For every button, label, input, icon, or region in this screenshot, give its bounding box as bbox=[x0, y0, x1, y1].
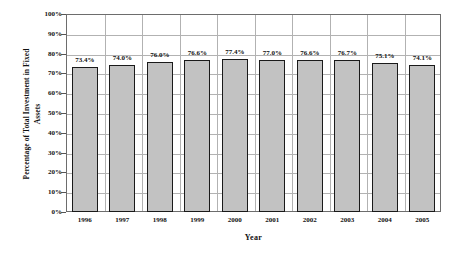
bar-2002[interactable] bbox=[297, 60, 323, 212]
y-axis-tick-mark bbox=[61, 73, 66, 74]
y-axis-tick-label: 30% bbox=[30, 149, 62, 157]
x-axis-tick-label-2000: 2000 bbox=[228, 216, 242, 224]
bar-group-2000[interactable]: 77.4% bbox=[216, 14, 254, 212]
bar-value-label-1997: 74.0% bbox=[113, 54, 132, 62]
x-axis-tick-label-2004: 2004 bbox=[378, 216, 392, 224]
y-axis-tick-label: 70% bbox=[30, 69, 62, 77]
bar-group-2004[interactable]: 75.1% bbox=[366, 14, 404, 212]
bar-value-label-1999: 76.6% bbox=[188, 49, 207, 57]
bar-1998[interactable] bbox=[147, 62, 173, 212]
y-axis-tick-label: 20% bbox=[30, 168, 62, 176]
x-axis-tick-label-1999: 1999 bbox=[190, 216, 204, 224]
bar-group-2003[interactable]: 76.7% bbox=[329, 14, 367, 212]
y-axis-tick-mark bbox=[61, 133, 66, 134]
x-axis-tick-label-2001: 2001 bbox=[265, 216, 279, 224]
y-axis-tick-label: 90% bbox=[30, 30, 62, 38]
x-axis-tick-label-1998: 1998 bbox=[153, 216, 167, 224]
x-axis-tick-label-1997: 1997 bbox=[115, 216, 129, 224]
y-axis-tick-mark bbox=[61, 153, 66, 154]
bars-layer: 73.4%74.0%76.0%76.6%77.4%77.0%76.6%76.7%… bbox=[66, 14, 441, 212]
bar-value-label-2004: 75.1% bbox=[375, 52, 394, 60]
y-axis-tick-mark bbox=[61, 113, 66, 114]
y-axis-tick-label: 60% bbox=[30, 89, 62, 97]
bar-group-2005[interactable]: 74.1% bbox=[404, 14, 442, 212]
y-axis-tick-label: 100% bbox=[30, 10, 62, 18]
y-axis-tick-label: 80% bbox=[30, 50, 62, 58]
bar-value-label-1996: 73.4% bbox=[75, 56, 94, 64]
bar-value-label-1998: 76.0% bbox=[150, 51, 169, 59]
x-axis-tick-label-1996: 1996 bbox=[78, 216, 92, 224]
y-axis-tick-label: 50% bbox=[30, 109, 62, 117]
bar-value-label-2002: 76.6% bbox=[300, 49, 319, 57]
y-axis-tick-mark bbox=[61, 192, 66, 193]
bar-1996[interactable] bbox=[72, 67, 98, 212]
bar-value-label-2005: 74.1% bbox=[413, 54, 432, 62]
x-axis-tick-label-2002: 2002 bbox=[303, 216, 317, 224]
bar-value-label-2003: 76.7% bbox=[338, 49, 357, 57]
x-axis-tick-label-2005: 2005 bbox=[415, 216, 429, 224]
y-axis-tick-labels: 100%90%80%70%60%50%40%30%20%10%0% bbox=[30, 14, 62, 212]
bar-group-2001[interactable]: 77.0% bbox=[254, 14, 292, 212]
bar-group-1997[interactable]: 74.0% bbox=[104, 14, 142, 212]
y-axis-tick-mark bbox=[61, 34, 66, 35]
bar-group-1998[interactable]: 76.0% bbox=[141, 14, 179, 212]
y-axis-tick-mark bbox=[61, 172, 66, 173]
x-axis-tick-label-2003: 2003 bbox=[340, 216, 354, 224]
bar-1999[interactable] bbox=[184, 60, 210, 212]
bar-2004[interactable] bbox=[372, 63, 398, 212]
y-axis-tick-mark bbox=[61, 54, 66, 55]
y-axis-tick-label: 10% bbox=[30, 188, 62, 196]
bar-1997[interactable] bbox=[109, 65, 135, 212]
x-axis-title: Year bbox=[66, 233, 441, 242]
bar-2000[interactable] bbox=[222, 59, 248, 212]
bar-value-label-2000: 77.4% bbox=[225, 48, 244, 56]
y-axis-tick-mark bbox=[61, 14, 66, 15]
bar-value-label-2001: 77.0% bbox=[263, 49, 282, 57]
y-axis-tick-label: 0% bbox=[30, 208, 62, 216]
bar-group-1999[interactable]: 76.6% bbox=[179, 14, 217, 212]
bar-chart: Percentage of Total Investment in Fixed … bbox=[0, 0, 457, 257]
x-axis-tick-labels: 1996199719981999200020012002200320042005 bbox=[66, 216, 441, 230]
bar-group-1996[interactable]: 73.4% bbox=[66, 14, 104, 212]
y-axis-tick-mark bbox=[61, 212, 66, 213]
bar-2005[interactable] bbox=[409, 65, 435, 212]
bar-group-2002[interactable]: 76.6% bbox=[291, 14, 329, 212]
bar-2003[interactable] bbox=[334, 60, 360, 212]
bar-2001[interactable] bbox=[259, 60, 285, 212]
y-axis-tick-mark bbox=[61, 93, 66, 94]
y-axis-tick-label: 40% bbox=[30, 129, 62, 137]
